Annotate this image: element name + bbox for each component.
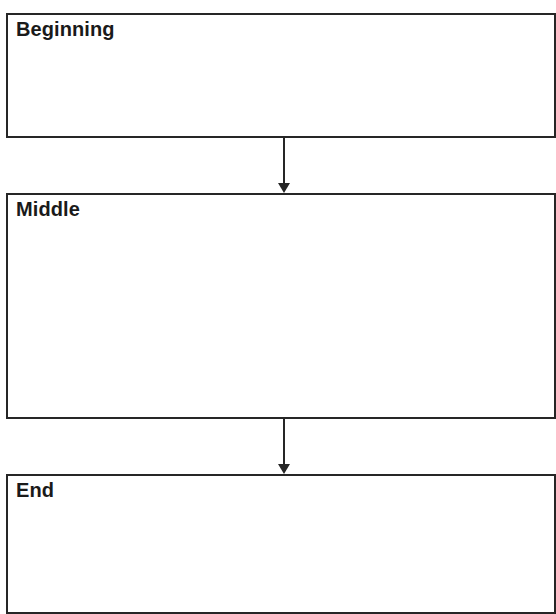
box-middle: Middle [6,193,556,419]
box-label-middle: Middle [16,198,80,221]
arrow-down-icon [277,138,291,194]
arrow-down-icon [277,419,291,475]
box-label-end: End [16,479,54,502]
box-end: End [6,474,556,614]
arrow-beginning-to-middle [277,138,291,194]
arrow-middle-to-end [277,419,291,475]
box-beginning: Beginning [6,13,556,138]
box-label-beginning: Beginning [16,18,115,41]
